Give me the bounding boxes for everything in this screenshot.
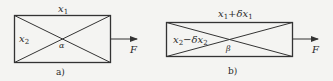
angle-beta-label: β [225,44,231,53]
label-x1-plus-dx1: x1+δx1 [218,8,253,21]
label-x2-minus-dx2: x2−δx2 [173,34,208,47]
angle-alpha-label: α [59,41,65,50]
panel-b: x1+δx1 x2−δx2 β F b) [167,8,321,76]
caption-a: a) [56,67,65,77]
label-x2-a: x2 [19,33,29,46]
caption-b: b) [228,66,237,76]
force-label-a: F [129,44,138,55]
diagram-canvas: x1 x2 α F a) x1+δx1 x2−δx2 β F b) [0,0,333,81]
panel-a: x1 x2 α F a) [15,3,139,77]
label-x1-a: x1 [58,3,68,16]
force-label-b: F [311,44,320,55]
